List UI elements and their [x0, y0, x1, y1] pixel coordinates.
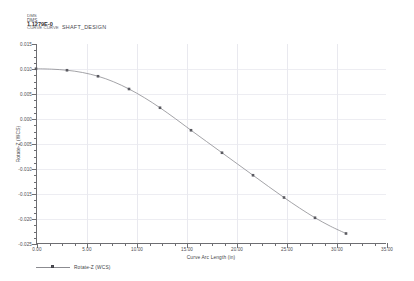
data-point-marker	[190, 129, 193, 132]
series-line	[36, 69, 346, 234]
x-axis-tick-label: 35.00	[381, 247, 393, 252]
x-axis-title: Curve Arc Length (in)	[187, 255, 235, 260]
data-point-marker	[252, 174, 255, 177]
data-point-marker	[221, 151, 224, 154]
x-axis-tick-label: 5.00	[82, 247, 91, 252]
y-axis-tick-label: 0.000	[20, 117, 32, 122]
data-point-marker	[128, 88, 131, 91]
data-point-marker	[345, 232, 348, 235]
y-axis-tick-label: 0.010	[20, 67, 32, 72]
x-axis-tick-label: 15.00	[181, 247, 193, 252]
data-point-marker	[35, 67, 38, 70]
data-point-marker	[159, 106, 162, 109]
chart-plot-area: 0.0150.0100.0050.000-0.005-0.010-0.015-0…	[0, 0, 414, 281]
data-point-marker	[97, 75, 100, 78]
legend-sample-swatch	[36, 264, 70, 271]
legend-label: Rotate-Z (WCS)	[74, 265, 110, 270]
data-point-marker	[283, 196, 286, 199]
data-curve	[36, 44, 386, 244]
y-axis-tick-label: 0.015	[20, 42, 32, 47]
y-axis-tick-label: -0.010	[18, 167, 32, 172]
y-axis-tick-label: -0.020	[18, 217, 32, 222]
y-axis-tick-label: -0.025	[18, 242, 32, 247]
x-axis-tick-label: 20.00	[231, 247, 243, 252]
y-axis-tick-label: 0.005	[20, 92, 32, 97]
square-marker-icon	[51, 265, 54, 268]
data-point-marker	[314, 216, 317, 219]
x-axis-tick-label: 30.00	[331, 247, 343, 252]
x-axis-tick-label: 10.00	[131, 247, 143, 252]
chart-legend: Rotate-Z (WCS)	[36, 264, 110, 271]
y-axis-title: Rotate-Z (WCS)	[16, 126, 21, 162]
y-axis-tick-label: -0.015	[18, 192, 32, 197]
x-axis-tick-label: 0.00	[32, 247, 41, 252]
x-axis-tick-label: 25.00	[281, 247, 293, 252]
data-point-marker	[66, 69, 69, 72]
